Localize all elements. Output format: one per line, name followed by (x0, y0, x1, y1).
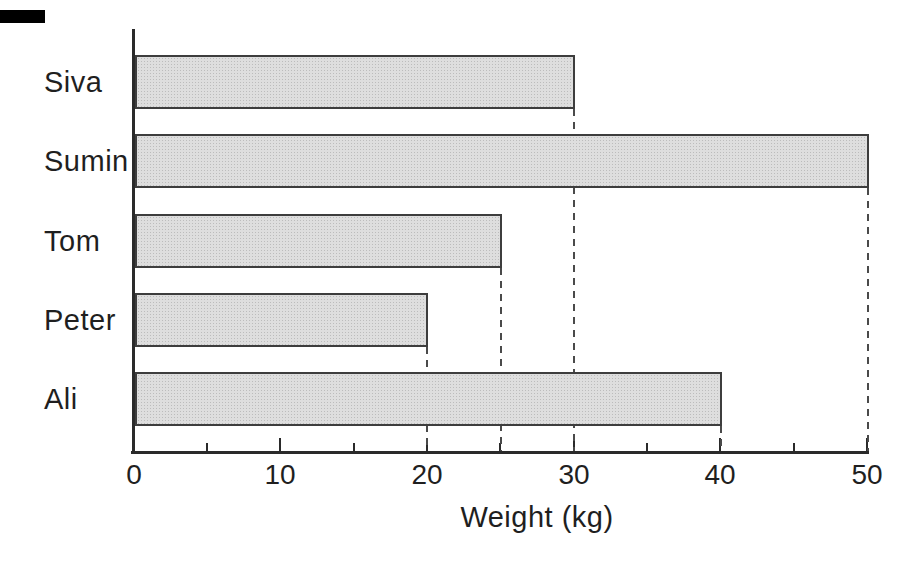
bar-siva (135, 55, 575, 109)
dashed-drop-line-sumin (867, 188, 869, 451)
tick-label-50: 50 (835, 459, 899, 491)
minor-tick-35 (646, 443, 648, 451)
category-label-siva: Siva (44, 55, 136, 109)
bar-tom (135, 214, 502, 268)
minor-tick-15 (353, 443, 355, 451)
category-label-peter: Peter (44, 293, 136, 347)
bar-peter (135, 293, 428, 347)
tick-label-0: 0 (102, 459, 166, 491)
tick-label-40: 40 (688, 459, 752, 491)
bar-ali (135, 372, 722, 426)
weight-bar-chart: SivaSuminTomPeterAli 01020304050 Weight … (0, 0, 923, 561)
minor-tick-45 (793, 443, 795, 451)
scan-artifact-mark (0, 10, 45, 23)
major-tick-10 (279, 438, 281, 451)
bar-sumin (135, 134, 869, 188)
category-label-sumin: Sumin (44, 134, 136, 188)
tick-label-30: 30 (542, 459, 606, 491)
tick-label-20: 20 (395, 459, 459, 491)
category-label-tom: Tom (44, 214, 136, 268)
x-axis-title: Weight (kg) (437, 501, 637, 534)
tick-label-10: 10 (248, 459, 312, 491)
dashed-drop-line-ali (720, 426, 722, 451)
category-label-ali: Ali (44, 372, 136, 426)
x-axis-line (131, 451, 869, 454)
minor-tick-5 (206, 443, 208, 451)
